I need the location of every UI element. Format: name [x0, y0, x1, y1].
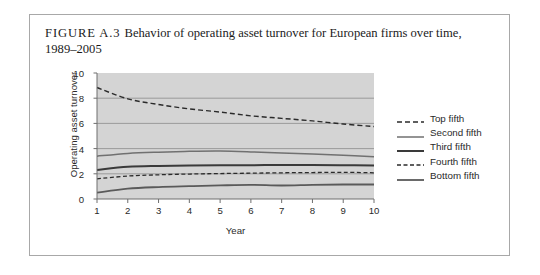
chart-container: Operating asset turnover Year 0246810 12…	[45, 67, 500, 247]
legend-swatch-icon	[397, 142, 424, 152]
legend-item: Third fifth	[397, 140, 509, 154]
legend-item: Top fifth	[397, 111, 509, 125]
legend-swatch-icon	[397, 113, 424, 123]
plot-area	[45, 67, 385, 217]
chart-legend: Top fifthSecond fifthThird fifthFourth f…	[397, 111, 509, 183]
figure-frame: FIGURE A.3Behavior of operating asset tu…	[29, 14, 510, 256]
legend-label: Top fifth	[430, 113, 464, 124]
legend-swatch-icon	[397, 156, 424, 166]
x-axis-label: Year	[97, 225, 374, 236]
legend-item: Second fifth	[397, 125, 509, 139]
legend-item: Bottom fifth	[397, 169, 509, 183]
legend-swatch-icon	[397, 171, 424, 181]
legend-label: Second fifth	[430, 127, 482, 138]
plot-background	[97, 73, 374, 199]
figure-label: FIGURE A.3	[45, 26, 120, 40]
legend-label: Fourth fifth	[430, 156, 477, 167]
legend-item: Fourth fifth	[397, 154, 509, 168]
legend-label: Third fifth	[430, 141, 471, 152]
figure-caption: FIGURE A.3Behavior of operating asset tu…	[45, 26, 495, 57]
legend-swatch-icon	[397, 128, 424, 138]
legend-label: Bottom fifth	[430, 170, 480, 181]
